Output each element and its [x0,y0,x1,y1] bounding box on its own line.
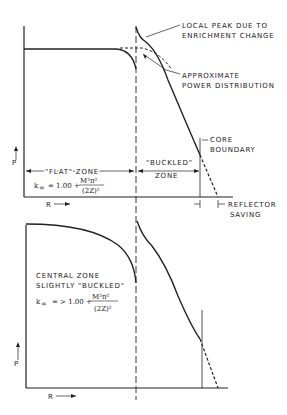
approx-label-2: POWER DISTRIBUTION [182,82,275,90]
bottom-p-label: P [14,360,19,368]
bottom-outer-curve [137,221,200,339]
top-r-label: R [46,201,52,209]
buckled-label-1: "BUCKLED" [146,159,193,167]
svg-text:(2Z)²: (2Z)² [94,305,112,313]
reflector-label-2: SAVING [230,211,261,219]
top-extrap-dashed [200,155,218,197]
core-label-2: BOUNDARY [210,146,256,154]
local-peak-label-1: LOCAL PEAK DUE TO [182,22,268,30]
flat-zone-label: "FLAT" ZONE [45,168,99,176]
svg-text:∞: ∞ [41,300,47,308]
svg-text:M²π²: M²π² [92,293,110,301]
top-approx-dashed [120,48,172,70]
central-label-1: CENTRAL ZONE [36,272,100,280]
buckled-label-2: ZONE [155,172,178,180]
bottom-formula: k ∞ = > 1.00 + M²π² (2Z)² [36,293,118,313]
top-flat-curve [24,49,136,69]
reactor-power-distribution-diagram: LOCAL PEAK DUE TO ENRICHMENT CHANGE APPR… [0,0,287,415]
core-label-1: CORE [210,136,233,144]
central-label-2: SLIGHTLY "BUCKLED" [36,282,125,290]
reflector-saving-ticks [194,200,225,208]
top-buckled-curve [136,27,200,155]
bottom-extrap-dashed [200,339,218,388]
svg-text:M²π²: M²π² [80,177,98,185]
svg-text:= > 1.00 +: = > 1.00 + [52,298,92,306]
local-peak-label-2: ENRICHMENT CHANGE [182,32,275,40]
svg-text:∞: ∞ [39,184,45,192]
top-p-label: P [12,159,17,167]
approx-label-1: APPROXIMATE [182,72,240,80]
svg-text:= 1.00 +: = 1.00 + [48,182,80,190]
reflector-label-1: REFLECTOR [228,201,276,209]
bottom-r-label: R [48,393,54,401]
top-formula: k ∞ = 1.00 + M²π² (2Z)² [34,177,104,195]
local-peak-leader [146,25,180,37]
svg-text:(2Z)²: (2Z)² [82,187,100,195]
